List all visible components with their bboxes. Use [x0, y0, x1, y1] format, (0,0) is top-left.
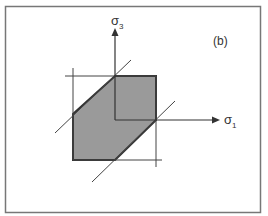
panel-label: (b)	[213, 34, 228, 48]
sigma1-arrowhead-icon	[212, 117, 220, 124]
sigma1-label: σ1	[224, 112, 236, 130]
sigma1-subscript: 1	[232, 121, 236, 130]
sigma3-subscript: 3	[119, 22, 123, 31]
yield-surface-diagram	[0, 0, 268, 216]
sigma1-symbol: σ	[224, 112, 232, 127]
sigma3-symbol: σ	[111, 13, 119, 28]
sigma3-label: σ3	[111, 13, 123, 31]
